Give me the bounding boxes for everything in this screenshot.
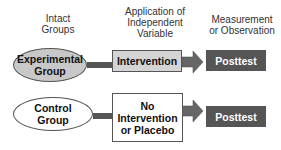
- experimental-group-label: Experimental Group: [17, 53, 83, 77]
- posttest-label: Posttest: [215, 55, 256, 67]
- arrow-right-icon: [182, 51, 204, 73]
- header-measurement: Measurement or Observation: [200, 14, 281, 36]
- placebo-box: No Intervention or Placebo: [112, 93, 183, 142]
- intervention-box: Intervention: [112, 50, 182, 72]
- posttest-label: Posttest: [215, 111, 256, 123]
- posttest-box-control: Posttest: [206, 106, 266, 127]
- control-group-label: Control Group: [34, 102, 71, 126]
- experimental-group-node: Experimental Group: [13, 48, 87, 82]
- placebo-label: No Intervention or Placebo: [117, 100, 177, 136]
- experimental-connector: [87, 62, 112, 68]
- header-intact-groups: Intact Groups: [28, 13, 88, 35]
- control-connector: [93, 113, 112, 119]
- arrow-right-icon: [182, 100, 204, 122]
- control-group-node: Control Group: [13, 97, 93, 131]
- posttest-box-experimental: Posttest: [206, 50, 266, 71]
- header-application: Application of Independent Variable: [112, 6, 198, 39]
- intervention-label: Intervention: [117, 55, 177, 67]
